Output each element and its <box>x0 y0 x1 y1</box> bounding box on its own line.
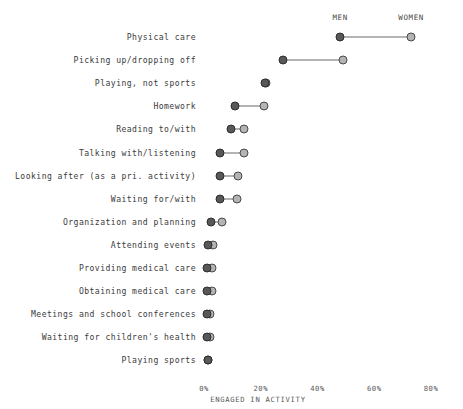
x-tick-label: 0% <box>199 384 209 393</box>
category-label: Meetings and school conferences <box>31 309 196 319</box>
connector-line <box>340 37 411 38</box>
chart-row: Providing medical care <box>0 259 463 277</box>
data-point-women <box>234 171 243 180</box>
chart-row: Homework <box>0 97 463 115</box>
data-point-men <box>203 356 212 365</box>
chart-row: Physical care <box>0 28 463 46</box>
x-axis-title: ENGAGED IN ACTIVITY <box>210 395 306 404</box>
x-tick-label: 40% <box>310 384 324 393</box>
chart-row: Picking up/dropping off <box>0 51 463 69</box>
data-point-women <box>218 217 227 226</box>
data-point-women <box>339 56 348 65</box>
category-label: Playing sports <box>121 355 196 365</box>
category-label: Looking after (as a pri. activity) <box>15 171 196 181</box>
chart-row: Playing, not sports <box>0 74 463 92</box>
chart-row: Obtaining medical care <box>0 282 463 300</box>
category-label: Providing medical care <box>79 263 196 273</box>
category-label: Physical care <box>127 32 196 42</box>
data-point-men <box>202 333 211 342</box>
data-point-women <box>239 125 248 134</box>
x-tick-label: 80% <box>424 384 438 393</box>
category-label: Obtaining medical care <box>79 286 196 296</box>
data-point-men <box>216 171 225 180</box>
data-point-men <box>261 79 270 88</box>
data-point-men <box>279 56 288 65</box>
data-point-men <box>202 310 211 319</box>
chart-row: Meetings and school conferences <box>0 305 463 323</box>
data-point-women <box>259 102 268 111</box>
category-label: Playing, not sports <box>95 78 196 88</box>
category-label: Reading to/with <box>116 124 196 134</box>
dumbbell-chart: MEN WOMEN Physical carePicking up/droppi… <box>0 0 463 409</box>
data-point-men <box>203 287 212 296</box>
data-point-men <box>203 264 212 273</box>
category-label: Talking with/listening <box>79 148 196 158</box>
category-label: Waiting for children's health <box>42 332 196 342</box>
data-point-women <box>232 194 241 203</box>
category-label: Waiting for/with <box>111 194 196 204</box>
chart-row: Talking with/listening <box>0 144 463 162</box>
x-tick-label: 20% <box>254 384 268 393</box>
category-label: Picking up/dropping off <box>74 55 196 65</box>
data-point-men <box>231 102 240 111</box>
connector-line <box>283 60 343 61</box>
data-point-men <box>336 33 345 42</box>
chart-row: Organization and planning <box>0 213 463 231</box>
chart-row: Waiting for children's health <box>0 328 463 346</box>
x-tick-label: 60% <box>367 384 381 393</box>
chart-row: Reading to/with <box>0 120 463 138</box>
category-label: Organization and planning <box>63 217 196 227</box>
data-point-men <box>226 125 235 134</box>
data-point-women <box>407 33 416 42</box>
data-point-women <box>239 148 248 157</box>
data-point-men <box>215 194 224 203</box>
chart-row: Looking after (as a pri. activity) <box>0 167 463 185</box>
category-label: Attending events <box>111 240 196 250</box>
data-point-men <box>215 148 224 157</box>
category-label: Homework <box>153 101 196 111</box>
plot-area: Physical carePicking up/dropping offPlay… <box>0 0 463 409</box>
chart-row: Attending events <box>0 236 463 254</box>
chart-row: Waiting for/with <box>0 190 463 208</box>
data-point-men <box>204 240 213 249</box>
data-point-men <box>207 217 216 226</box>
chart-row: Playing sports <box>0 351 463 369</box>
